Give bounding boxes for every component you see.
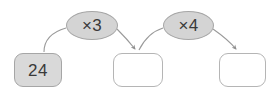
arrow-op1-to-node2 — [117, 29, 135, 49]
operator-ellipse-1-label: ×3 — [82, 17, 102, 34]
operator-ellipse-2[interactable]: ×4 — [163, 11, 214, 40]
answer-box-2[interactable] — [113, 53, 163, 87]
operator-ellipse-2-label: ×4 — [179, 17, 199, 34]
connector-node2-to-op2 — [139, 28, 163, 50]
operator-ellipse-1[interactable]: ×3 — [66, 11, 118, 40]
answer-box-3[interactable] — [219, 53, 266, 87]
function-machine-diagram: 24 ×3 ×4 — [0, 0, 270, 95]
arrow-op2-to-node3 — [213, 29, 236, 49]
value-box-1[interactable]: 24 — [14, 53, 62, 87]
connector-node1-to-op1 — [44, 28, 66, 52]
value-box-1-label: 24 — [28, 62, 48, 79]
